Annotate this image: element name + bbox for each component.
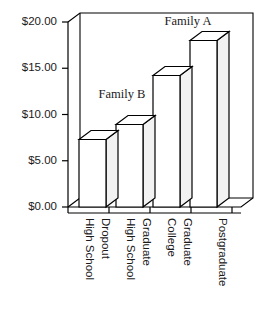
x-tick-label: Dropout (100, 218, 112, 260)
x-tick-label: High School (84, 218, 96, 280)
x-tick-label: Graduate (141, 218, 153, 266)
annotation-family-a: Family A (165, 14, 212, 28)
y-tick-3: $15.00 (22, 61, 68, 73)
x-tick-label: High School (125, 218, 137, 280)
x-tick-label: Postgraduate (217, 218, 229, 286)
y-tick-2: $10.00 (22, 108, 68, 120)
bar-chart: $0.00 $5.00 $10.00 $15.00 $20.00 (0, 0, 261, 313)
y-tick-4: $20.00 (22, 15, 68, 27)
y-tick-label: $20.00 (22, 15, 57, 27)
bar-college-graduate (153, 67, 192, 208)
x-axis-labels: High School Dropout High School Graduate… (84, 218, 229, 286)
bar-high-school-dropout (79, 131, 118, 208)
x-axis-ticks (68, 207, 241, 213)
y-tick-1: $5.00 (28, 154, 68, 166)
bar-series (79, 32, 229, 208)
y-tick-0: $0.00 (28, 200, 68, 212)
x-tick-label: College (166, 218, 178, 257)
y-axis-ticks: $0.00 $5.00 $10.00 $15.00 $20.00 (22, 15, 68, 212)
annotation-family-b: Family B (99, 87, 146, 101)
x-tick-label: Graduate (182, 218, 194, 266)
y-tick-label: $0.00 (28, 200, 57, 212)
y-tick-label: $5.00 (28, 154, 57, 166)
chart-canvas: $0.00 $5.00 $10.00 $15.00 $20.00 (0, 0, 261, 313)
y-tick-label: $10.00 (22, 108, 57, 120)
bar-postgraduate (190, 32, 229, 208)
y-tick-label: $15.00 (22, 61, 57, 73)
bar-high-school-graduate (116, 116, 155, 208)
